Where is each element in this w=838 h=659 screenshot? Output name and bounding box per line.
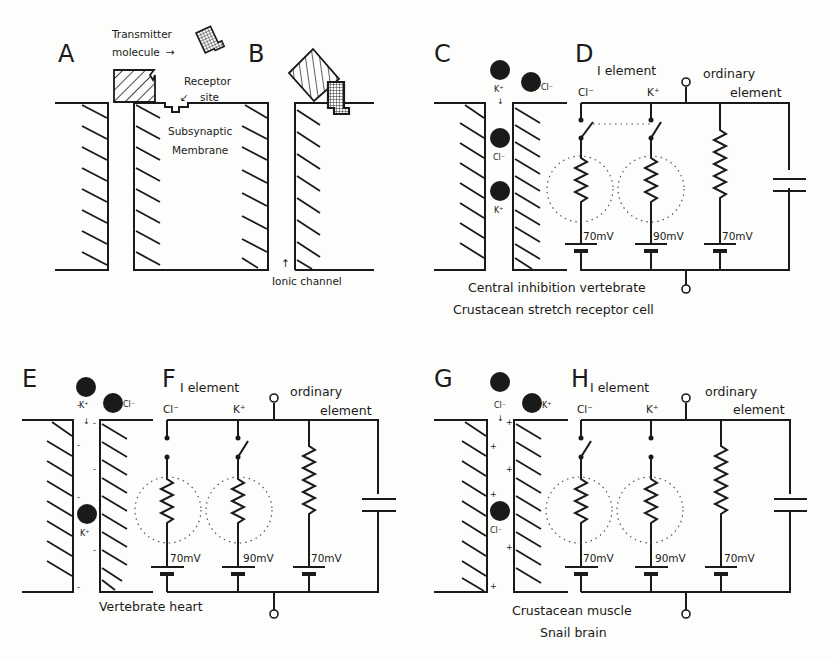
svg-text:-: - <box>93 546 96 555</box>
receptor-block <box>114 70 155 102</box>
svg-text:+: + <box>506 465 513 474</box>
ion-k-channel <box>490 181 510 201</box>
panel-label-g: G <box>434 365 453 393</box>
element-label: element <box>730 85 782 100</box>
resistor-cl <box>161 457 173 567</box>
svg-text:+: + <box>490 582 497 591</box>
panel-a: A Transmitter molecule → Receptor site ↙… <box>55 25 268 270</box>
ion-cl-top <box>490 372 510 392</box>
down-arrow-icon: ↓ <box>497 414 504 423</box>
down-arrow-icon: ↓ <box>497 97 504 106</box>
panel-d: D I element ordinary element Cl⁻ K⁺ 70mV <box>453 40 806 317</box>
ion-label: Cl⁻ <box>493 153 505 162</box>
branch-ion-k: K⁺ <box>233 403 245 415</box>
branch-ion-k: K⁺ <box>647 86 659 98</box>
transmitter-molecule-free <box>196 25 224 55</box>
panel-h: H I element ordinary element Cl⁻ K⁺ 70mV… <box>512 365 807 640</box>
panel-label-e: E <box>22 365 37 393</box>
site-label: site <box>200 91 219 103</box>
voltage-label: 70mV <box>722 230 754 242</box>
svg-text:-: - <box>93 465 96 474</box>
switch-cl <box>581 122 593 138</box>
terminal-top <box>270 394 278 402</box>
resistor-ordinary <box>715 420 727 567</box>
i-element-label: I element <box>590 380 649 395</box>
resistor-cl <box>575 457 587 567</box>
terminal-top <box>682 394 690 402</box>
pointer-icon: ↙ <box>180 91 189 103</box>
caption-line2: Crustacean stretch receptor cell <box>453 302 654 317</box>
up-arrow-icon: ↑ <box>281 257 290 269</box>
ordinary-label: ordinary <box>705 384 758 399</box>
ion-k-top <box>76 377 96 397</box>
svg-text:-: - <box>77 441 80 450</box>
ion-cl-top <box>521 72 541 92</box>
resistor-k <box>645 457 657 567</box>
voltage-label: 70mV <box>724 552 756 564</box>
panel-e: E - - - - - - - - K⁺ ↓ Cl⁻ K <box>22 365 153 592</box>
terminal-bottom <box>270 610 278 618</box>
panel-label-f: F <box>162 365 176 393</box>
i-element-label: I element <box>597 63 656 78</box>
ion-label: Cl⁻ <box>541 83 553 92</box>
svg-text:+: + <box>490 442 497 451</box>
ion-label: K⁺ <box>494 85 503 94</box>
panel-g: G + + + + + + Cl⁻ ↓ K⁺ Cl⁻ <box>434 365 568 592</box>
panel-label-a: A <box>58 40 75 68</box>
ion-cl-channel <box>490 128 510 148</box>
circuit-frame <box>167 420 378 592</box>
receptor-label: Receptor <box>184 75 232 87</box>
panel-label-b: B <box>248 40 264 68</box>
ion-label: K⁺ <box>542 401 551 410</box>
ion-label: Cl⁻ <box>490 526 502 535</box>
membrane-label: Membrane <box>172 144 228 156</box>
ion-label: K⁺ <box>80 529 89 538</box>
terminal-bottom <box>682 285 690 293</box>
panel-b: B ↑ Ionic channel <box>248 40 374 287</box>
panel-label-h: H <box>571 365 589 393</box>
voltage-label: 90mV <box>655 552 687 564</box>
switch-cl <box>581 441 591 457</box>
panel-f: F I element ordinary element Cl⁻ K⁺ 70mV… <box>99 365 396 618</box>
resistor-k <box>232 457 244 567</box>
transmitter-molecule-bound <box>328 82 349 114</box>
panel-label-c: C <box>434 40 451 68</box>
ion-cl-channel <box>490 501 510 521</box>
svg-text:+: + <box>506 418 513 427</box>
switch-k <box>238 441 248 457</box>
arrow-right-icon: → <box>166 46 175 58</box>
down-arrow-icon: ↓ <box>83 417 90 426</box>
resistor-ordinary <box>303 420 315 567</box>
branch-ion-cl: Cl⁻ <box>577 403 593 415</box>
circuit-frame <box>581 420 790 592</box>
molecule-label: molecule <box>112 46 160 58</box>
svg-text:-: - <box>77 583 80 592</box>
caption-line1: Vertebrate heart <box>99 599 203 614</box>
circuit-frame <box>581 103 789 270</box>
terminal-bottom <box>682 610 690 618</box>
voltage-label: 70mV <box>583 230 615 242</box>
resistor-k <box>645 138 657 234</box>
ordinary-label: ordinary <box>703 66 756 81</box>
ion-k-top <box>490 60 510 80</box>
svg-text:+: + <box>506 543 513 552</box>
ordinary-label: ordinary <box>290 384 343 399</box>
caption-line1: Crustacean muscle <box>512 603 632 618</box>
figure-canvas: A Transmitter molecule → Receptor site ↙… <box>0 0 838 659</box>
svg-text:-: - <box>77 493 80 502</box>
ion-k-top <box>522 393 542 413</box>
svg-text:+: + <box>490 490 497 499</box>
i-element-label: I element <box>180 380 239 395</box>
resistor-cl <box>575 138 587 234</box>
caption-line1: Central inhibition vertebrate <box>468 280 646 295</box>
voltage-label: 70mV <box>311 552 343 564</box>
branch-ion-cl: Cl⁻ <box>578 86 594 98</box>
voltage-label: 70mV <box>170 552 202 564</box>
resistor-ordinary <box>714 103 726 244</box>
switch-k <box>651 122 661 138</box>
ion-k-channel <box>77 504 97 524</box>
voltage-label: 90mV <box>653 230 685 242</box>
ion-label: K⁺ <box>494 206 503 215</box>
voltage-label: 70mV <box>583 552 615 564</box>
branch-ion-cl: Cl⁻ <box>163 403 179 415</box>
